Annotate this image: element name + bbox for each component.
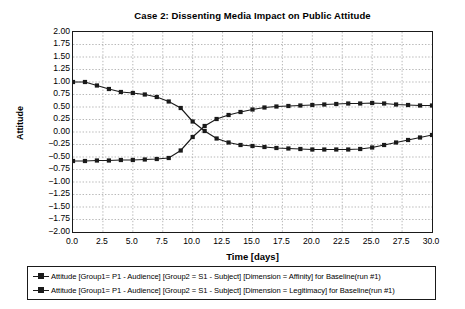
x-axis-label: Time [days] — [72, 251, 433, 262]
data-point-marker — [179, 106, 183, 110]
y-tick-label: −0.50 — [30, 152, 70, 161]
data-point-marker — [430, 103, 432, 107]
data-point-marker — [334, 102, 338, 106]
y-tick-label: 2.00 — [30, 27, 70, 36]
data-point-marker — [370, 101, 374, 105]
y-axis-ticks: 2.001.751.501.251.000.750.500.250.00−0.2… — [26, 0, 70, 309]
y-axis-label: Attitude — [15, 93, 25, 153]
data-point-marker — [250, 144, 254, 148]
data-point-marker — [406, 103, 410, 107]
data-point-marker — [334, 147, 338, 151]
data-point-marker — [73, 80, 75, 84]
data-point-marker — [262, 145, 266, 149]
data-point-marker — [191, 135, 195, 139]
legend-marker-icon — [33, 271, 49, 281]
y-tick-label: 0.25 — [30, 114, 70, 123]
data-point-marker — [274, 146, 278, 150]
y-tick-label: 0.75 — [30, 89, 70, 98]
data-point-marker — [95, 83, 99, 87]
legend-marker-icon — [33, 285, 49, 295]
data-point-marker — [179, 148, 183, 152]
data-point-marker — [286, 104, 290, 108]
data-point-marker — [418, 135, 422, 139]
data-point-marker — [394, 102, 398, 106]
data-point-marker — [203, 124, 207, 128]
data-point-marker — [394, 140, 398, 144]
data-point-marker — [298, 147, 302, 151]
data-point-marker — [322, 147, 326, 151]
data-point-marker — [119, 90, 123, 94]
legend-item-label: Attitude [Group1= P1 - Audience] [Group2… — [51, 272, 381, 281]
y-tick-label: 1.75 — [30, 39, 70, 48]
data-point-marker — [155, 157, 159, 161]
data-point-marker — [322, 102, 326, 106]
data-point-marker — [143, 92, 147, 96]
y-tick-label: 1.25 — [30, 64, 70, 73]
data-point-marker — [155, 95, 159, 99]
data-point-marker — [167, 99, 171, 103]
data-point-marker — [143, 157, 147, 161]
x-tick-label: 30.0 — [411, 236, 451, 246]
chart-legend: Attitude [Group1= P1 - Audience] [Group2… — [27, 266, 436, 300]
data-point-marker — [83, 80, 87, 84]
data-point-marker — [262, 105, 266, 109]
data-point-marker — [215, 136, 219, 140]
data-point-marker — [358, 101, 362, 105]
data-point-marker — [107, 158, 111, 162]
data-point-marker — [226, 113, 230, 117]
y-tick-label: 1.50 — [30, 52, 70, 61]
data-point-marker — [406, 138, 410, 142]
plot-canvas — [73, 32, 432, 232]
data-point-marker — [298, 103, 302, 107]
y-tick-label: −2.00 — [30, 227, 70, 236]
y-tick-label: −1.75 — [30, 214, 70, 223]
y-tick-label: 0.50 — [30, 102, 70, 111]
data-point-marker — [215, 117, 219, 121]
data-point-marker — [310, 147, 314, 151]
data-point-marker — [274, 104, 278, 108]
data-point-marker — [131, 91, 135, 95]
data-point-marker — [358, 147, 362, 151]
legend-item-label: Attitude [Group1= P1 - Audience] [Group2… — [51, 286, 395, 295]
data-point-marker — [250, 107, 254, 111]
data-point-marker — [286, 146, 290, 150]
y-tick-label: 1.00 — [30, 77, 70, 86]
y-tick-label: −1.00 — [30, 177, 70, 186]
data-point-marker — [119, 158, 123, 162]
legend-item-legitimacy[interactable]: Attitude [Group1= P1 - Audience] [Group2… — [33, 283, 395, 297]
data-point-marker — [430, 133, 432, 137]
legend-item-affinity[interactable]: Attitude [Group1= P1 - Audience] [Group2… — [33, 269, 381, 283]
y-tick-label: −1.50 — [30, 202, 70, 211]
data-point-marker — [370, 145, 374, 149]
y-tick-label: −1.25 — [30, 189, 70, 198]
data-point-marker — [191, 119, 195, 123]
data-point-marker — [131, 158, 135, 162]
data-point-marker — [238, 143, 242, 147]
data-point-marker — [95, 158, 99, 162]
data-point-marker — [226, 140, 230, 144]
y-tick-label: −0.75 — [30, 164, 70, 173]
chart-title: Case 2: Dissenting Media Impact on Publi… — [72, 10, 433, 21]
data-point-marker — [382, 101, 386, 105]
data-point-marker — [346, 101, 350, 105]
data-point-marker — [310, 103, 314, 107]
data-point-marker — [167, 156, 171, 160]
data-point-marker — [107, 87, 111, 91]
data-point-marker — [83, 159, 87, 163]
data-point-marker — [238, 110, 242, 114]
y-tick-label: 0.00 — [30, 127, 70, 136]
y-tick-label: −0.25 — [30, 139, 70, 148]
data-point-marker — [73, 159, 75, 163]
data-point-marker — [382, 143, 386, 147]
data-point-marker — [418, 103, 422, 107]
data-point-marker — [203, 129, 207, 133]
chart-figure: Case 2: Dissenting Media Impact on Publi… — [0, 0, 465, 309]
data-point-marker — [346, 147, 350, 151]
plot-area — [72, 31, 433, 233]
